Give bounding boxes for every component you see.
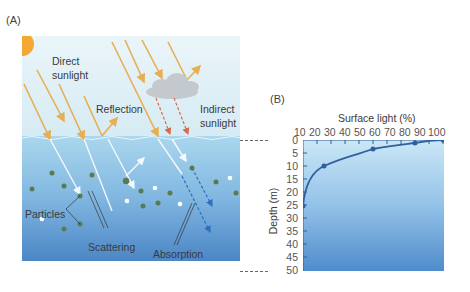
indirect-sunlight-line1: Indirect bbox=[200, 103, 236, 115]
x-tick-labels: 10 20 30 40 50 60 70 80 90 100 bbox=[300, 126, 460, 138]
y-tick: 0 bbox=[274, 134, 298, 146]
x-tick: 80 bbox=[399, 126, 411, 138]
light-depth-curve bbox=[303, 140, 444, 271]
y-tick: 50 bbox=[274, 264, 298, 276]
chart-plot-area bbox=[303, 140, 444, 271]
y-tick: 40 bbox=[274, 238, 298, 250]
y-tick: 45 bbox=[274, 251, 298, 263]
surface-connector-line bbox=[240, 140, 268, 141]
x-tick: 20 bbox=[309, 126, 321, 138]
x-tick: 50 bbox=[354, 126, 366, 138]
direct-sunlight-line1: Direct bbox=[52, 55, 88, 67]
panel-a-label: (A) bbox=[6, 14, 21, 26]
bottom-connector-line bbox=[240, 271, 268, 272]
particles-label: Particles bbox=[25, 208, 65, 220]
direct-sunlight-line2: sunlight bbox=[52, 69, 88, 81]
x-tick: 60 bbox=[369, 126, 381, 138]
direct-sunlight-label: Direct sunlight bbox=[52, 55, 88, 81]
absorption-label: Absorption bbox=[153, 248, 203, 260]
indirect-sunlight-line2: sunlight bbox=[200, 117, 236, 129]
panel-b-label: (B) bbox=[270, 93, 285, 105]
y-axis-title: Depth (m) bbox=[267, 188, 279, 235]
reflection-label: Reflection bbox=[96, 103, 143, 115]
x-tick: 100 bbox=[428, 126, 446, 138]
x-tick: 70 bbox=[384, 126, 396, 138]
y-tick: 10 bbox=[274, 160, 298, 172]
x-tick: 30 bbox=[324, 126, 336, 138]
x-axis-title: Surface light (%) bbox=[338, 112, 416, 124]
y-tick: 5 bbox=[274, 147, 298, 159]
indirect-sunlight-label: Indirect sunlight bbox=[200, 103, 236, 129]
x-tick: 40 bbox=[339, 126, 351, 138]
y-tick: 15 bbox=[274, 173, 298, 185]
x-tick: 90 bbox=[414, 126, 426, 138]
scattering-label: Scattering bbox=[88, 241, 135, 253]
